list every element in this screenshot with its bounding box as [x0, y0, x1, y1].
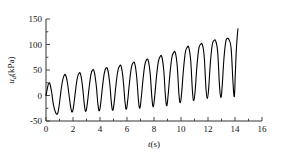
x-tick-label: 12 [204, 124, 213, 134]
y-tick-label: 0 [38, 91, 43, 101]
x-axis-ticks [46, 117, 262, 121]
y-tick-label: 150 [29, 14, 43, 24]
x-tick-label: 16 [258, 124, 268, 134]
x-tick-label: 2 [71, 124, 76, 134]
y-axis-title: ud(kPa) [6, 56, 17, 83]
cyclic-pore-pressure-chart: 0246810121416 -50050100150 t(s) ud(kPa) [0, 0, 282, 154]
x-tick-label: 0 [44, 124, 49, 134]
x-tick-label: 8 [152, 124, 157, 134]
x-tick-label: 10 [177, 124, 187, 134]
x-tick-label: 6 [125, 124, 130, 134]
y-tick-label: -50 [30, 116, 42, 126]
x-tick-label: 14 [231, 124, 241, 134]
y-axis-tick-labels: -50050100150 [29, 14, 43, 126]
y-tick-label: 100 [29, 40, 43, 50]
data-series-line [46, 29, 238, 115]
chart-figure: 0246810121416 -50050100150 t(s) ud(kPa) [0, 0, 282, 154]
y-tick-label: 50 [33, 65, 43, 75]
x-axis-title: t(s) [148, 139, 160, 149]
x-tick-label: 4 [98, 124, 103, 134]
y-axis-ticks [46, 19, 50, 121]
x-axis-tick-labels: 0246810121416 [44, 124, 267, 134]
